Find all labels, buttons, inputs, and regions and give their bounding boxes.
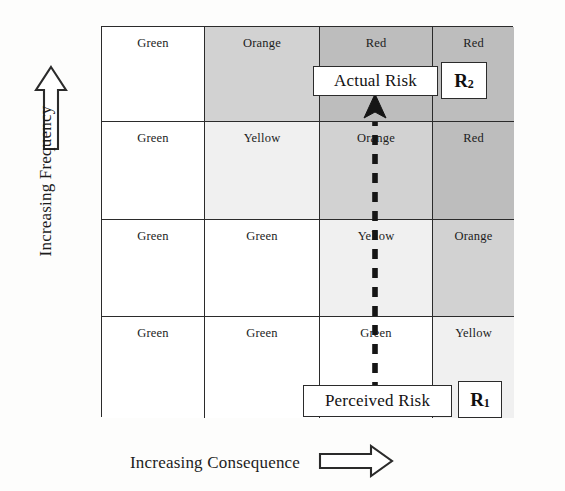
actual-risk-tag-subscript: 2 (468, 77, 474, 92)
matrix-cell-label: Yellow (433, 326, 514, 341)
actual-risk-tag[interactable]: R2 (441, 62, 487, 99)
matrix-cell-r2c1: Green (102, 122, 205, 220)
matrix-cell-label: Red (433, 131, 514, 146)
actual-risk-callout[interactable]: Actual Risk (313, 66, 438, 96)
arrow-right-outline-icon (317, 444, 395, 482)
matrix-cell-label: Green (102, 326, 204, 341)
matrix-cell-r3c4: Orange (433, 220, 514, 317)
matrix-cell-label: Red (433, 36, 514, 51)
matrix-cell-r2c4: Red (433, 122, 514, 220)
matrix-cell-label: Orange (433, 229, 514, 244)
matrix-cell-label: Orange (205, 36, 319, 51)
matrix-cell-label: Green (102, 131, 204, 146)
matrix-cell-r1c2: Orange (205, 27, 320, 122)
actual-risk-tag-letter: R (454, 70, 468, 92)
matrix-cell-r2c2: Yellow (205, 122, 320, 220)
actual-risk-label: Actual Risk (334, 71, 417, 91)
x-axis-label: Increasing Consequence (130, 453, 300, 473)
perceived-risk-tag[interactable]: R1 (458, 381, 502, 418)
perceived-risk-label: Perceived Risk (325, 391, 430, 411)
matrix-cell-r1c1: Green (102, 27, 205, 122)
y-axis: Increasing Frequency (6, 26, 94, 417)
matrix-cell-label: Yellow (320, 229, 432, 244)
x-axis: Increasing Consequence (130, 443, 395, 483)
diagram-canvas: Increasing Frequency Green Orange Red Re… (0, 0, 565, 491)
matrix-cell-label: Red (320, 36, 432, 51)
perceived-risk-tag-subscript: 1 (484, 396, 490, 411)
matrix-cell-r4c1: Green (102, 317, 205, 418)
matrix-cell-r2c3: Orange (320, 122, 433, 220)
matrix-cell-r3c1: Green (102, 220, 205, 317)
perceived-risk-tag-letter: R (470, 389, 484, 411)
perceived-risk-callout[interactable]: Perceived Risk (303, 385, 452, 417)
matrix-cell-label: Orange (320, 131, 432, 146)
matrix-cell-label: Yellow (205, 131, 319, 146)
matrix-cell-label: Green (205, 326, 319, 341)
matrix-cell-label: Green (102, 229, 204, 244)
matrix-cell-r3c2: Green (205, 220, 320, 317)
matrix-cell-label: Green (102, 36, 204, 51)
y-axis-label: Increasing Frequency (36, 66, 56, 296)
matrix-cell-label: Green (205, 229, 319, 244)
matrix-cell-r3c3: Yellow (320, 220, 433, 317)
matrix-cell-label: Green (320, 326, 432, 341)
